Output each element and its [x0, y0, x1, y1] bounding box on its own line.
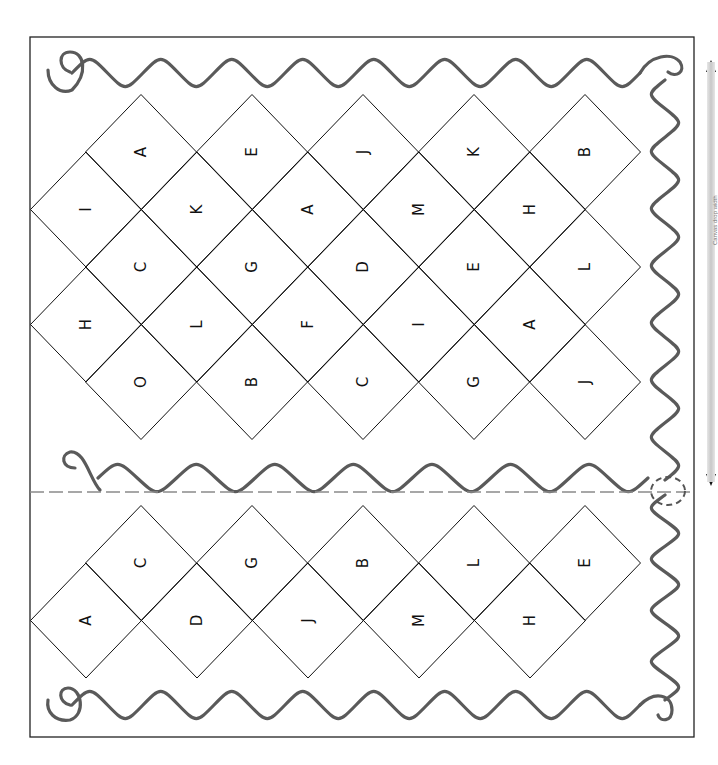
dimension-strip	[707, 62, 715, 482]
cell-letter: G	[243, 261, 261, 273]
cell-letter: M	[410, 614, 428, 627]
cell-letter: O	[132, 376, 150, 388]
dimension-label: Canvas drop width	[712, 195, 718, 245]
cell-letter: E	[576, 558, 594, 567]
cell-letter: B	[243, 377, 261, 387]
cell-letter: D	[354, 261, 372, 273]
cell-letter: E	[465, 262, 483, 271]
cell-letter: I	[77, 207, 95, 211]
cell-letter: H	[521, 615, 539, 626]
cell-letter: K	[465, 146, 483, 157]
cell-letter: I	[410, 322, 428, 326]
cell-letter: G	[465, 376, 483, 388]
cell-letter: G	[243, 557, 261, 569]
cell-letter: B	[576, 147, 594, 157]
cell-letter: L	[576, 262, 594, 271]
cell-letter: E	[243, 147, 261, 156]
cell-letter: C	[132, 262, 150, 272]
cell-letter: D	[188, 615, 206, 627]
cell-letter: M	[410, 203, 428, 216]
cell-letter: H	[521, 204, 539, 215]
cell-letter: K	[188, 203, 206, 214]
cell-letter: L	[188, 320, 206, 329]
cell-letter: C	[354, 377, 372, 387]
cell-letter: L	[465, 558, 483, 567]
cell-letter: A	[521, 319, 539, 330]
cell-letter: F	[299, 320, 317, 329]
cell-letter: H	[77, 319, 95, 330]
cell-letter: J	[354, 150, 372, 155]
cell-letter: A	[299, 204, 317, 215]
cell-letter: J	[576, 380, 594, 385]
cell-letter: A	[132, 146, 150, 157]
cell-letter: C	[132, 558, 150, 568]
cell-letter: B	[354, 558, 372, 568]
cell-letter: J	[299, 618, 317, 623]
cell-letter: A	[77, 615, 95, 626]
